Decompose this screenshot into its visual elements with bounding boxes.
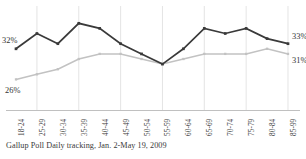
data-point-marker: [98, 27, 101, 30]
data-point-marker: [287, 53, 289, 55]
data-point-marker: [140, 53, 143, 56]
x-tick-label: 60-64: [186, 119, 193, 136]
x-tick-label: 85-99: [291, 119, 298, 136]
data-point-marker: [161, 63, 164, 66]
x-tick-label: 65-69: [207, 119, 214, 136]
data-point-marker: [57, 68, 59, 70]
data-point-marker: [99, 53, 101, 55]
x-tick-label: 55-59: [165, 119, 172, 136]
x-tick-label: 35-39: [82, 119, 89, 136]
x-tick-label: 50-54: [145, 119, 152, 136]
x-tick-label: 30-34: [61, 119, 68, 136]
data-point-marker: [57, 42, 60, 45]
x-tick-label: 40-44: [103, 119, 110, 136]
x-tick-label: 80-84: [270, 119, 277, 136]
x-tick-label: 70-74: [228, 119, 235, 136]
x-tick-label: 18-24: [19, 119, 26, 136]
data-point-marker: [245, 53, 247, 55]
data-point-marker: [224, 53, 226, 55]
data-point-marker: [224, 32, 227, 35]
data-point-marker: [287, 42, 290, 45]
data-point-marker: [203, 53, 205, 55]
data-point-marker: [77, 22, 80, 25]
data-point-marker: [203, 27, 206, 30]
data-point-marker: [266, 37, 269, 40]
gridlines-group: [37, 6, 288, 110]
data-point-marker: [36, 32, 39, 35]
x-tick-label: 45-49: [124, 119, 131, 136]
data-point-marker: [119, 53, 121, 55]
data-label-left-dark: 32%: [2, 37, 17, 45]
data-point-marker: [182, 47, 185, 50]
data-label-left-light: 26%: [5, 87, 20, 95]
light-series-group: [15, 48, 289, 81]
data-point-marker: [119, 42, 122, 45]
data-label-right-light: 31%: [292, 57, 306, 65]
data-point-marker: [15, 47, 18, 50]
dark-series-group: [15, 22, 290, 65]
data-point-marker: [36, 73, 38, 75]
x-tick-label: 75-79: [249, 119, 256, 136]
data-point-marker: [78, 58, 80, 60]
x-tick-label: 25-29: [40, 119, 47, 136]
data-point-marker: [15, 78, 17, 80]
chart-container: 18-2425-2930-3435-3940-4445-4950-5455-59…: [0, 0, 306, 159]
data-label-right-dark: 33%: [292, 33, 306, 41]
data-point-marker: [245, 27, 248, 30]
data-point-marker: [182, 58, 184, 60]
data-point-marker: [266, 48, 268, 50]
data-point-marker: [140, 58, 142, 60]
chart-caption: Gallup Poll Daily tracking, Jan. 2-May 1…: [6, 141, 167, 150]
